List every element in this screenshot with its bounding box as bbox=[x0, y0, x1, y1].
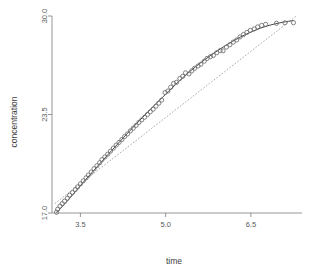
data-point bbox=[291, 21, 295, 25]
plot-data bbox=[54, 16, 296, 214]
chart-container: 17.023.530.0 3.55.06.5 time concentratio… bbox=[0, 0, 309, 277]
y-axis-tick-labels: 17.023.530.0 bbox=[40, 9, 49, 221]
y-tick-label: 23.5 bbox=[40, 107, 49, 122]
x-tick-label: 5.0 bbox=[160, 220, 170, 229]
y-tick-label: 17.0 bbox=[40, 206, 49, 221]
x-tick-label: 6.5 bbox=[246, 220, 256, 229]
data-point bbox=[58, 204, 62, 208]
x-axis-title: time bbox=[166, 256, 182, 266]
scatter-plot: 17.023.530.0 3.55.06.5 time concentratio… bbox=[0, 0, 309, 277]
data-point bbox=[221, 49, 225, 53]
y-tick-label: 30.0 bbox=[40, 9, 49, 24]
data-point bbox=[260, 23, 264, 27]
data-points bbox=[54, 21, 295, 215]
x-axis-ticks bbox=[80, 213, 250, 217]
plot-axes bbox=[48, 16, 302, 217]
data-point bbox=[264, 22, 268, 26]
x-axis-tick-labels: 3.55.06.5 bbox=[75, 220, 256, 229]
y-axis-ticks bbox=[48, 16, 52, 213]
x-tick-label: 3.5 bbox=[75, 220, 85, 229]
regression-line bbox=[55, 16, 296, 204]
y-axis-title: concentration bbox=[9, 96, 19, 147]
fitted-curve bbox=[57, 21, 294, 213]
